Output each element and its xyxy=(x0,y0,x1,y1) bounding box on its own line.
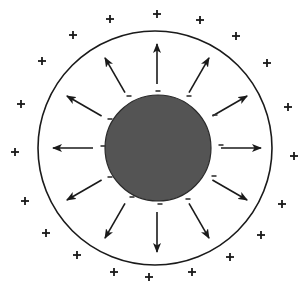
field-arrow-4 xyxy=(212,180,247,200)
positive-charge-icon xyxy=(106,15,114,23)
electric-field-diagram xyxy=(0,0,306,291)
negative-charge-icon xyxy=(219,144,224,146)
positive-charge-icon xyxy=(284,103,292,111)
positive-charge-icon xyxy=(145,273,153,281)
field-arrow-1 xyxy=(189,58,209,93)
positive-charge-icon xyxy=(42,229,50,237)
positive-charge-icon xyxy=(69,31,77,39)
positive-charge-icon xyxy=(257,231,265,239)
positive-charge-icon xyxy=(110,268,118,276)
field-arrow-2 xyxy=(212,96,247,116)
negative-charge-icon xyxy=(127,95,132,97)
positive-charge-icon xyxy=(226,253,234,261)
field-arrow-5 xyxy=(189,203,209,238)
positive-charge-icon xyxy=(232,32,240,40)
negative-charge-icon xyxy=(130,196,135,198)
field-arrow-10 xyxy=(67,96,102,116)
field-arrow-11 xyxy=(105,58,125,93)
negative-charge-icon xyxy=(186,198,191,200)
negative-charge-icon xyxy=(158,203,163,205)
positive-charge-icon xyxy=(290,152,298,160)
positive-charge-icon xyxy=(17,100,25,108)
negative-charge-icon xyxy=(213,114,218,116)
positive-charge-icon xyxy=(263,59,271,67)
diagram-svg xyxy=(0,0,306,291)
negative-charge-icon xyxy=(108,118,113,120)
positive-charge-icon xyxy=(21,197,29,205)
positive-charge-icon xyxy=(11,148,19,156)
negative-charge-icon xyxy=(108,176,113,178)
positive-charge-icon xyxy=(73,251,81,259)
negative-charge-icon xyxy=(187,95,192,97)
positive-charge-icon xyxy=(188,268,196,276)
field-arrow-7 xyxy=(105,203,125,238)
field-arrow-8 xyxy=(67,180,102,200)
positive-charge-icon xyxy=(196,16,204,24)
negative-charge-icon xyxy=(156,90,161,92)
positive-charge-icon xyxy=(38,57,46,65)
negative-charge-icon xyxy=(101,145,106,147)
positive-charge-icon xyxy=(278,200,286,208)
negative-charge-icon xyxy=(212,175,217,177)
charged-core-sphere xyxy=(105,95,211,201)
positive-charge-icon xyxy=(153,10,161,18)
